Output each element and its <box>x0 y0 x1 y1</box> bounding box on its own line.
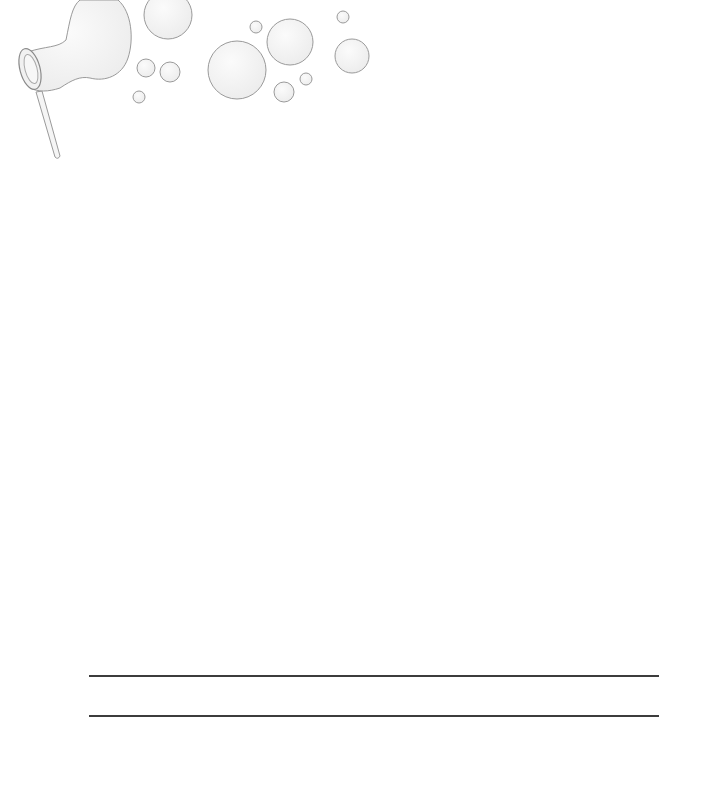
writing-line-1 <box>89 675 659 677</box>
writing-lines <box>89 0 659 792</box>
wand-handle <box>36 91 60 158</box>
stationery-page <box>0 0 722 792</box>
writing-line-2 <box>89 715 659 717</box>
